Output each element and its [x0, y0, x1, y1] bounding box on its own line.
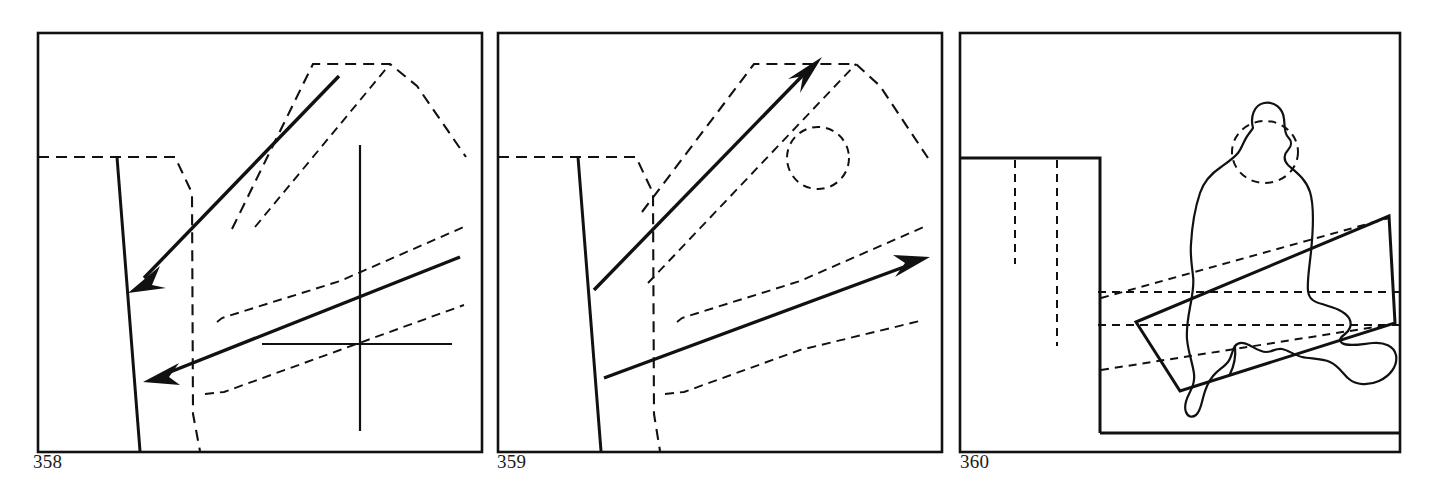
- inclined-seat-plane-360: [1136, 216, 1395, 391]
- dashed-plane-diagonal-lower-360: [1101, 324, 1394, 370]
- solid-wall-block-360: [960, 158, 1100, 433]
- caption-360: 360: [960, 452, 989, 471]
- seated-figure-silhouette-360: [1185, 103, 1396, 417]
- panel-360: 360: [0, 0, 1429, 493]
- dashed-plane-diagonal-upper-360: [1101, 218, 1389, 298]
- halo-icon-360: [1232, 121, 1298, 183]
- figure-plate: 358 359: [0, 0, 1429, 493]
